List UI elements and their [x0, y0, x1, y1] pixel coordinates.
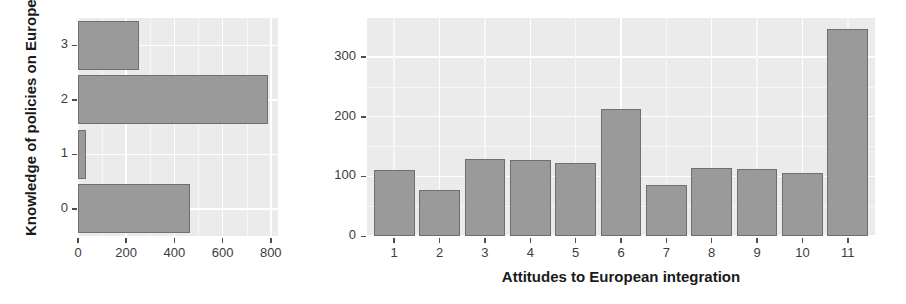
bar — [78, 184, 190, 233]
x-tick-label: 400 — [164, 245, 186, 260]
x-tick-label: 4 — [527, 245, 534, 260]
x-tick-mark — [847, 238, 849, 243]
x-tick-label: 11 — [841, 245, 855, 260]
x-tick-mark — [711, 238, 713, 243]
bar — [419, 190, 460, 236]
y-tick-mark — [72, 208, 77, 210]
x-tick-label: 1 — [391, 245, 398, 260]
attitudes-chart: 0100200300 1234567891011 Attitudes to Eu… — [300, 0, 906, 304]
y-tick-label: 1 — [61, 145, 68, 160]
x-tick-label: 800 — [260, 245, 282, 260]
x-tick-mark — [575, 238, 577, 243]
x-tick-label: 2 — [436, 245, 443, 260]
x-tick-label: 8 — [708, 245, 715, 260]
bar — [465, 159, 506, 236]
bar — [782, 173, 823, 236]
bar — [374, 170, 415, 236]
x-tick-label: 6 — [617, 245, 624, 260]
y-tick-label: 0 — [349, 227, 356, 242]
gridline-vertical-minor — [198, 18, 199, 236]
y-tick-mark — [361, 236, 366, 238]
y-tick-mark — [361, 56, 366, 58]
x-tick-mark — [125, 238, 127, 243]
bar — [78, 130, 86, 179]
x-tick-mark — [620, 238, 622, 243]
y-tick-label: 2 — [61, 91, 68, 106]
x-tick-mark — [802, 238, 804, 243]
x-tick-mark — [530, 238, 532, 243]
x-tick-mark — [756, 238, 758, 243]
bar — [737, 169, 778, 236]
bar — [78, 75, 268, 124]
bar — [555, 163, 596, 236]
x-tick-mark — [666, 238, 668, 243]
attitudes-chart-plot-panel — [367, 18, 875, 236]
bar — [827, 29, 868, 236]
knowledge-chart-y-axis-title: Knowledge of policies on Europe — [22, 18, 39, 236]
y-tick-mark — [361, 176, 366, 178]
gridline-vertical-minor — [247, 18, 248, 236]
y-tick-label: 0 — [61, 200, 68, 215]
bar — [78, 21, 139, 70]
y-tick-label: 100 — [334, 167, 356, 182]
y-tick-label: 300 — [334, 48, 356, 63]
gridline-horizontal — [78, 154, 278, 156]
x-tick-label: 7 — [663, 245, 670, 260]
x-tick-label: 10 — [795, 245, 809, 260]
y-tick-mark — [72, 99, 77, 101]
x-tick-mark — [174, 238, 176, 243]
y-tick-label: 3 — [61, 36, 68, 51]
gridline-vertical — [222, 18, 224, 236]
x-tick-label: 3 — [481, 245, 488, 260]
bar — [601, 109, 642, 236]
x-tick-label: 200 — [115, 245, 137, 260]
x-tick-mark — [484, 238, 486, 243]
x-tick-mark — [222, 238, 224, 243]
x-tick-mark — [77, 238, 79, 243]
x-tick-mark — [393, 238, 395, 243]
x-tick-mark — [439, 238, 441, 243]
x-tick-label: 9 — [753, 245, 760, 260]
y-tick-mark — [72, 154, 77, 156]
gridline-vertical — [270, 18, 272, 236]
x-tick-label: 600 — [212, 245, 234, 260]
y-tick-mark — [361, 116, 366, 118]
bar — [691, 168, 732, 236]
knowledge-chart-plot-panel — [78, 18, 278, 236]
x-tick-label: 0 — [74, 245, 81, 260]
bar — [510, 160, 551, 236]
bar — [646, 185, 687, 236]
figure-root: Knowledge of policies on Europe 0123 020… — [0, 0, 906, 304]
y-tick-mark — [72, 45, 77, 47]
y-tick-label: 200 — [334, 108, 356, 123]
attitudes-chart-x-axis-title: Attitudes to European integration — [367, 268, 875, 285]
x-tick-mark — [270, 238, 272, 243]
x-tick-label: 5 — [572, 245, 579, 260]
knowledge-chart: Knowledge of policies on Europe 0123 020… — [0, 0, 300, 304]
